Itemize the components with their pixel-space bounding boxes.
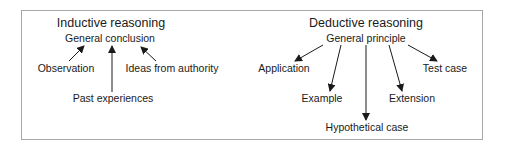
arrow-principle-to-test-case bbox=[408, 45, 437, 61]
arrow-observation-to-conclusion bbox=[69, 46, 84, 61]
arrow-principle-to-example bbox=[330, 45, 341, 91]
arrow-authority-to-conclusion bbox=[141, 47, 156, 61]
arrow-principle-to-application bbox=[295, 45, 323, 61]
arrows-layer bbox=[0, 0, 509, 147]
arrow-principle-to-extension bbox=[389, 45, 402, 91]
